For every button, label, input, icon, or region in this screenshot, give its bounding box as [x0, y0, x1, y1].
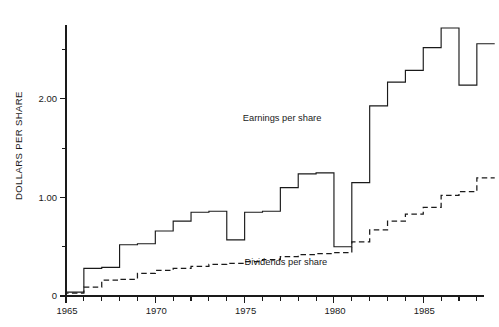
- y-axis-tick-labels: 01.002.00: [39, 93, 58, 301]
- earnings-series-label: Earnings per share: [243, 113, 322, 123]
- x-tick-label: 1985: [414, 305, 435, 316]
- y-tick-label: 1.00: [39, 192, 58, 203]
- x-tick-label: 1970: [146, 305, 167, 316]
- x-axis-ticks: [66, 296, 477, 303]
- y-tick-label: 0: [52, 290, 57, 301]
- y-axis-ticks: [60, 50, 66, 296]
- x-axis-tick-labels: 19651970197519801985: [56, 305, 434, 316]
- x-tick-label: 1980: [324, 305, 345, 316]
- x-tick-label: 1975: [235, 305, 256, 316]
- dollars-per-share-step-chart: 01.002.00 19651970197519801985 DOLLARS P…: [0, 0, 499, 327]
- y-axis-title: DOLLARS PER SHARE: [13, 91, 24, 200]
- dividends-series-label: Dividends per share: [245, 257, 328, 267]
- x-tick-label: 1965: [56, 305, 77, 316]
- chart-container: 01.002.00 19651970197519801985 DOLLARS P…: [0, 0, 499, 327]
- y-tick-label: 2.00: [39, 93, 58, 104]
